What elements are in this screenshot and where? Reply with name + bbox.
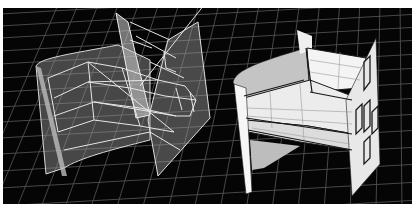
- 3d-viewport: [3, 8, 412, 204]
- shaded-underside: [250, 140, 300, 170]
- wireframe-model: [36, 8, 210, 176]
- scene-canvas: [3, 8, 412, 204]
- figure-frame: [0, 0, 417, 210]
- shaded-model: [233, 30, 380, 196]
